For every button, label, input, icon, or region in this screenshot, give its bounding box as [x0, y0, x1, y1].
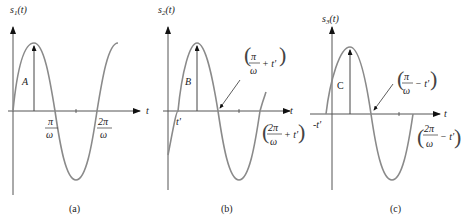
- amplitude-label-a: A: [21, 76, 29, 87]
- svg-text:ω: ω: [250, 65, 257, 76]
- svg-text:ω: ω: [270, 136, 277, 147]
- pointer-arrow-c: [374, 84, 393, 110]
- svg-text:+ t': + t': [284, 129, 299, 140]
- tick-pi-den: ω: [46, 129, 53, 140]
- annotation-pi-plus-t: ( π ω + t' ): [244, 42, 286, 76]
- svg-text:2π: 2π: [268, 122, 279, 133]
- y-axis-label-a: s1(t): [10, 4, 28, 17]
- x-axis-label-c: t: [444, 108, 447, 119]
- svg-text:− t': − t': [440, 131, 455, 142]
- x-axis-label-b: t: [290, 105, 293, 116]
- y-axis-label-c: s3(t): [322, 13, 340, 26]
- svg-text:+ t': + t': [262, 58, 277, 69]
- svg-text:ω: ω: [426, 138, 433, 149]
- tick-2pi-den: ω: [100, 129, 107, 140]
- annotation-2pi-plus-t: ( 2π ω + t' ): [262, 119, 305, 147]
- pointer-arrow-b: [220, 80, 240, 108]
- svg-text:ω: ω: [403, 85, 410, 96]
- annotation-pi-minus-t: ( π ω − t' ): [397, 66, 437, 96]
- tick-2pi-num: 2π: [98, 116, 109, 127]
- annotation-2pi-minus-t: ( 2π ω − t' ): [417, 123, 461, 149]
- svg-text:): ): [279, 42, 286, 67]
- svg-text:π: π: [251, 51, 257, 62]
- panel-b: s2(t) B t t' ( π ω + t' ) ( 2π ω + t' ) …: [158, 4, 305, 215]
- caption-c: (c): [390, 203, 401, 215]
- svg-text:2π: 2π: [424, 123, 435, 134]
- x-axis-label-a: t: [146, 105, 149, 116]
- svg-text:− t': − t': [415, 78, 430, 89]
- amplitude-label-c: C: [337, 80, 344, 91]
- svg-text:π: π: [404, 71, 410, 82]
- amplitude-label-b: B: [185, 76, 191, 87]
- shift-label-c: -t': [313, 119, 322, 130]
- svg-text:): ): [298, 119, 305, 144]
- caption-b: (b): [221, 203, 233, 215]
- caption-a: (a): [69, 203, 80, 215]
- panel-c: s3(t) C t -t' ( π ω − t' ) ( 2π ω − t' )…: [310, 13, 461, 215]
- tick-pi-num: π: [48, 116, 54, 127]
- shift-label-b: t': [176, 116, 182, 127]
- svg-text:): ): [430, 66, 437, 91]
- y-axis-label-b: s2(t): [158, 4, 176, 17]
- panel-a: s1(t) A t π ω 2π ω (a): [8, 4, 149, 215]
- sinusoid-diagram: s1(t) A t π ω 2π ω (a) s2(t) B t t' ( π …: [0, 0, 462, 220]
- svg-text:): ): [454, 124, 461, 149]
